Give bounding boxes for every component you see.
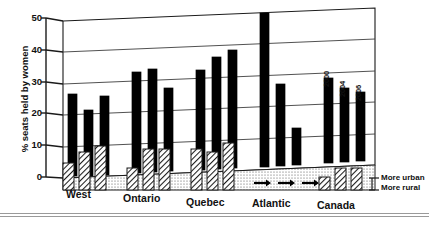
- chart-figure: % seats held by women 50 40 30 20 10 0: [0, 0, 429, 237]
- x-label-quebec: Quebec: [186, 196, 225, 208]
- year-label-2004: 2004: [338, 81, 347, 97]
- bar-group-quebec: [191, 50, 237, 190]
- year-label-2000: 2000: [322, 71, 331, 87]
- page-rule-bottom: [0, 216, 429, 217]
- x-label-atlantic: Atlantic: [252, 197, 291, 209]
- page-rule-top: [0, 213, 429, 214]
- year-label-2006: 2006: [354, 85, 363, 101]
- x-label-west: West: [66, 188, 91, 200]
- legend-more-rural: More rural: [381, 183, 420, 192]
- y-axis-spine: [41, 18, 63, 178]
- legend-more-urban: More urban: [381, 173, 425, 182]
- x-label-canada: Canada: [317, 199, 355, 211]
- x-label-ontario: Ontario: [123, 192, 160, 204]
